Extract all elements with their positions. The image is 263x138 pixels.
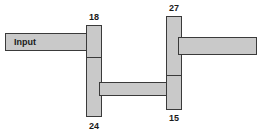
left-column	[86, 25, 102, 117]
left-column-divider	[86, 57, 102, 58]
middle-beam	[99, 82, 170, 96]
label-bottom-right: 15	[166, 113, 182, 123]
input-beam-label: Input	[14, 37, 36, 47]
label-top-right: 27	[166, 3, 182, 13]
diagram-canvas: Input 18 24 27 15	[0, 0, 263, 138]
label-bottom-left: 24	[86, 121, 102, 131]
right-column-divider	[166, 75, 182, 76]
label-top-left: 18	[86, 12, 102, 22]
output-beam	[178, 37, 257, 55]
right-column	[166, 16, 182, 110]
